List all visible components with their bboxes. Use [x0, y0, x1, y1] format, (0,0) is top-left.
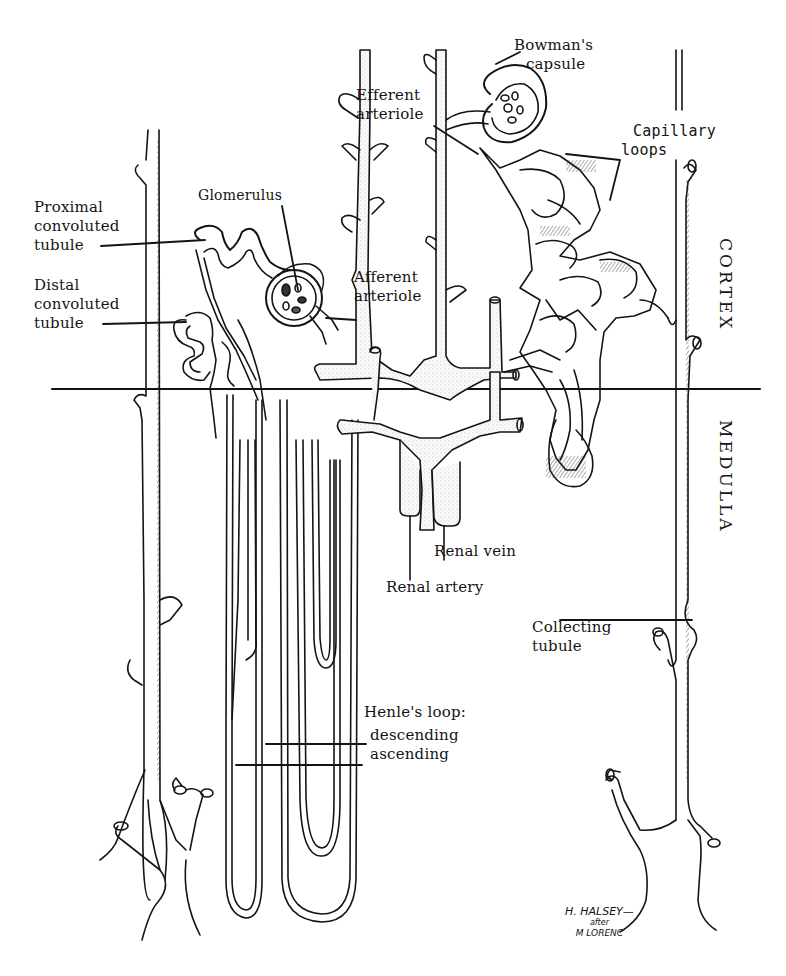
left-glomerulus	[266, 264, 338, 344]
label-line: Afferent	[354, 268, 422, 287]
label-line: Distal	[34, 276, 120, 295]
renal-vessels	[315, 50, 523, 580]
label-proximal-convoluted-tubule: Proximal convoluted tubule	[34, 198, 120, 255]
bottom-left-tubule-branch	[114, 778, 213, 940]
label-henles-loop-ascending: ascending	[370, 745, 466, 764]
artist-signature: H. HALSEY— after M LORENC	[565, 906, 634, 939]
label-capillary-loops: Capillary loops	[633, 122, 716, 160]
label-collecting-tubule: Collecting tubule	[532, 618, 611, 656]
henles-loops	[226, 395, 358, 922]
right-collecting-tubule	[606, 50, 720, 932]
label-renal-artery: Renal artery	[386, 578, 483, 597]
region-label-cortex: CORTEX	[716, 238, 736, 331]
label-line: arteriole	[354, 287, 422, 306]
signature-line-2: after	[565, 917, 634, 928]
label-line: Bowman's	[514, 36, 593, 55]
label-distal-convoluted-tubule: Distal convoluted tubule	[34, 276, 120, 333]
region-label-medulla: MEDULLA	[716, 420, 736, 534]
label-afferent-arteriole: Afferent arteriole	[354, 268, 422, 306]
label-line: Collecting	[532, 618, 611, 637]
label-line: Renal artery	[386, 578, 483, 597]
leader-lines	[101, 52, 692, 765]
label-line: tubule	[34, 236, 120, 255]
label-henles-loop-descending: descending	[370, 726, 466, 745]
nephron-diagram: Bowman's capsule Efferent arteriole Capi…	[0, 0, 786, 976]
label-line: tubule	[34, 314, 120, 333]
label-line: loops	[621, 141, 716, 160]
label-line: Proximal	[34, 198, 120, 217]
label-henles-loop: Henle's loop: descending ascending	[364, 703, 466, 764]
label-line: tubule	[532, 637, 611, 656]
label-line: Glomerulus	[198, 186, 282, 205]
convoluted-tubules	[174, 226, 290, 438]
label-bowmans-capsule: Bowman's capsule	[514, 36, 593, 74]
label-line: Capillary	[633, 122, 716, 141]
label-efferent-arteriole: Efferent arteriole	[356, 86, 424, 124]
signature-line-3: M LORENC	[565, 928, 634, 939]
label-renal-vein: Renal vein	[434, 542, 516, 561]
label-line: capsule	[518, 55, 593, 74]
signature-line-1: H. HALSEY—	[565, 906, 634, 917]
label-line: Renal vein	[434, 542, 516, 561]
label-line: Efferent	[356, 86, 424, 105]
label-glomerulus: Glomerulus	[198, 186, 282, 205]
label-line: arteriole	[356, 105, 424, 124]
label-henles-loop-title: Henle's loop:	[364, 703, 466, 722]
label-line: convoluted	[34, 295, 120, 314]
label-line: convoluted	[34, 217, 120, 236]
